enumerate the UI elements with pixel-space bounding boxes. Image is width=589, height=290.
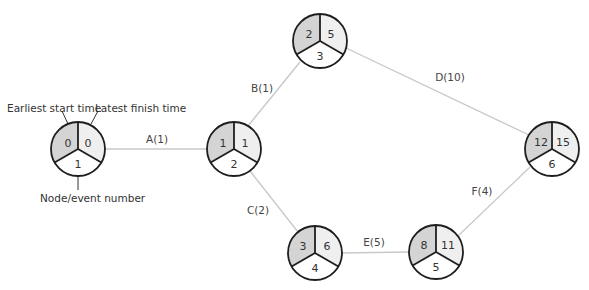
edge-e bbox=[342, 252, 409, 253]
node-5-number: 5 bbox=[433, 261, 440, 274]
node-4-earliest-start: 3 bbox=[300, 240, 307, 253]
node-6-latest-finish: 15 bbox=[556, 136, 570, 149]
legend-earliest-start: Earliest start time bbox=[7, 102, 101, 114]
node-5: 8 11 5 bbox=[409, 225, 463, 279]
edge-c bbox=[250, 171, 298, 232]
node-6: 12 15 6 bbox=[525, 122, 579, 176]
edge-b bbox=[248, 62, 300, 126]
node-6-earliest-start: 12 bbox=[534, 136, 548, 149]
node-4-latest-finish: 6 bbox=[324, 240, 331, 253]
edge-label-b: B(1) bbox=[251, 82, 273, 94]
edge-d bbox=[346, 48, 529, 135]
edge-label-f: F(4) bbox=[472, 185, 493, 197]
edge-f bbox=[458, 167, 530, 236]
legend-node-number: Node/event number bbox=[40, 192, 146, 204]
node-1-number: 1 bbox=[75, 158, 82, 171]
node-1-latest-finish: 0 bbox=[85, 137, 92, 150]
node-2-number: 2 bbox=[231, 158, 238, 171]
node-5-latest-finish: 11 bbox=[441, 239, 455, 252]
node-3-earliest-start: 2 bbox=[306, 28, 313, 41]
node-3-number: 3 bbox=[317, 50, 324, 63]
node-1-earliest-start: 0 bbox=[65, 137, 72, 150]
node-1: 0 0 1 bbox=[51, 122, 105, 176]
edges bbox=[105, 48, 530, 253]
edge-label-a: A(1) bbox=[146, 133, 168, 145]
node-3-latest-finish: 5 bbox=[328, 28, 335, 41]
edge-label-e: E(5) bbox=[363, 236, 385, 248]
node-2: 1 1 2 bbox=[207, 122, 261, 176]
edge-label-c: C(2) bbox=[247, 204, 269, 216]
node-2-earliest-start: 1 bbox=[220, 137, 227, 150]
node-2-latest-finish: 1 bbox=[242, 137, 249, 150]
node-6-number: 6 bbox=[549, 158, 556, 171]
edge-label-d: D(10) bbox=[435, 71, 465, 83]
network-diagram: A(1) B(1) C(2) D(10) E(5) F(4) Earliest … bbox=[0, 0, 589, 290]
edge-labels: A(1) B(1) C(2) D(10) E(5) F(4) bbox=[146, 71, 492, 248]
node-5-earliest-start: 8 bbox=[421, 239, 428, 252]
node-3: 2 5 3 bbox=[293, 14, 347, 68]
legend-latest-finish: Latest finish time bbox=[95, 102, 186, 114]
node-4: 3 6 4 bbox=[288, 226, 342, 280]
node-4-number: 4 bbox=[312, 262, 319, 275]
